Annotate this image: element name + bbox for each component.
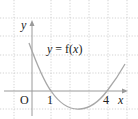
x-tick-label-1: 1 [47, 93, 53, 107]
function-graph: y x O 1 4 y = f(x) [0, 0, 138, 119]
y-axis [30, 20, 35, 116]
x-axis-label: x [117, 93, 124, 107]
y-axis-arrow-icon [30, 20, 35, 26]
y-axis-label: y [20, 18, 27, 32]
function-label: y = f(x) [46, 42, 82, 56]
x-tick-label-4: 4 [103, 93, 109, 107]
origin-label: O [20, 93, 29, 107]
